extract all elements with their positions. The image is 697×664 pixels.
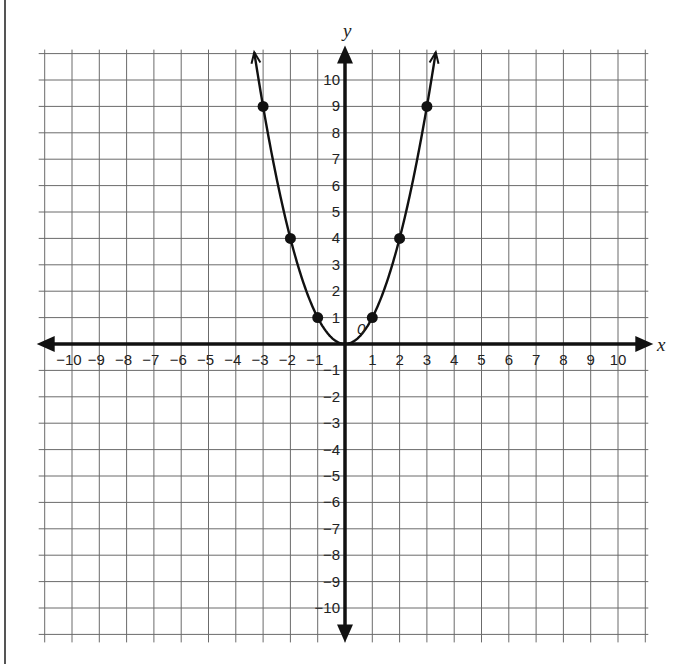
x-tick-label: 1 <box>368 351 376 368</box>
y-tick-label: −8 <box>323 546 340 563</box>
x-tick-label: 3 <box>423 351 431 368</box>
x-tick-label: −3 <box>252 351 269 368</box>
coordinate-plane: −10−9−8−7−6−5−4−3−2−112345678910−10−9−8−… <box>0 0 697 664</box>
y-tick-label: 3 <box>332 256 340 273</box>
y-tick-label: −9 <box>323 573 340 590</box>
y-tick-label: 4 <box>332 229 340 246</box>
x-tick-label: 10 <box>610 351 627 368</box>
x-tick-label: 2 <box>395 351 403 368</box>
y-tick-label: −4 <box>323 441 340 458</box>
x-tick-label: 5 <box>477 351 485 368</box>
data-point <box>312 312 323 323</box>
x-tick-label: 8 <box>559 351 567 368</box>
y-axis-up-arrow-icon <box>337 46 353 64</box>
x-tick-label: −9 <box>88 351 105 368</box>
x-axis-right-arrow-icon <box>635 336 653 352</box>
y-tick-label: −6 <box>323 493 340 510</box>
y-tick-label: 8 <box>332 124 340 141</box>
x-tick-label: 9 <box>587 351 595 368</box>
y-tick-label: −2 <box>323 388 340 405</box>
y-tick-label: 9 <box>332 97 340 114</box>
x-tick-label: −1 <box>306 351 323 368</box>
y-tick-label: 7 <box>332 150 340 167</box>
x-tick-label: −5 <box>197 351 214 368</box>
data-point <box>367 312 378 323</box>
data-point <box>394 233 405 244</box>
y-tick-label: 6 <box>332 177 340 194</box>
y-tick-label: −3 <box>323 414 340 431</box>
y-tick-label: 5 <box>332 203 340 220</box>
x-tick-label: −10 <box>56 351 81 368</box>
x-tick-label: 6 <box>505 351 513 368</box>
x-tick-label: −7 <box>142 351 159 368</box>
y-axis-label: y <box>341 20 352 41</box>
y-tick-label: −7 <box>323 520 340 537</box>
y-tick-label: 1 <box>332 309 340 326</box>
y-tick-label: −1 <box>323 361 340 378</box>
y-tick-label: −10 <box>315 599 340 616</box>
x-tick-label: 4 <box>450 351 458 368</box>
y-tick-label: −5 <box>323 467 340 484</box>
data-point <box>285 233 296 244</box>
data-point <box>258 101 269 112</box>
x-tick-label: −6 <box>170 351 187 368</box>
x-axis-left-arrow-icon <box>37 336 55 352</box>
x-axis-label: x <box>656 334 666 355</box>
x-tick-label: −4 <box>224 351 241 368</box>
data-point <box>421 101 432 112</box>
x-tick-label: −2 <box>279 351 296 368</box>
y-tick-label: 2 <box>332 282 340 299</box>
origin-label: 0 <box>357 320 366 337</box>
x-tick-label: 7 <box>532 351 540 368</box>
x-tick-label: −8 <box>115 351 132 368</box>
y-tick-label: 10 <box>323 71 340 88</box>
y-axis-down-arrow-icon <box>337 624 353 642</box>
